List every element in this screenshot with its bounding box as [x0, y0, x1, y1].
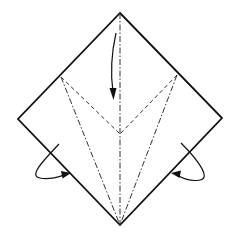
right-valley-fold — [120, 75, 177, 134]
fold-behind-right-arrow — [171, 143, 204, 181]
arrowhead-icon — [171, 171, 181, 179]
fold-down-arrow — [110, 33, 117, 100]
left-mountain-fold — [61, 77, 120, 225]
origami-diagram — [0, 0, 232, 239]
fold-down-arrow-shaft — [112, 33, 116, 92]
right-mountain-fold — [120, 75, 177, 225]
fold-behind-left-arrow — [36, 144, 71, 179]
left-valley-fold — [61, 77, 120, 134]
arrowhead-icon — [110, 88, 117, 100]
